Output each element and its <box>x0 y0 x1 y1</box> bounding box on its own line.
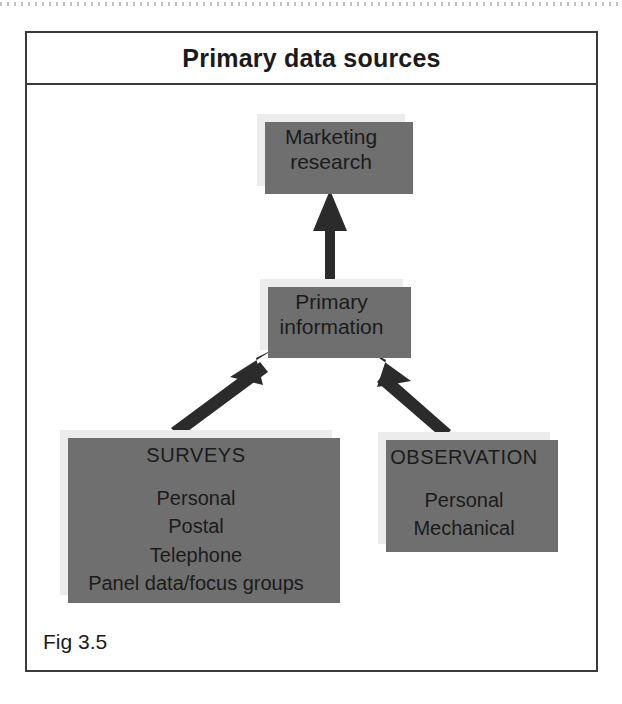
node-surveys-heading: SURVEYS <box>146 444 245 467</box>
node-surveys[interactable]: SURVEYS Personal Postal Telephone Panel … <box>60 430 332 595</box>
arrow-surveys-to-primary-information <box>171 349 274 437</box>
node-primary-information-line-2: information <box>280 315 384 340</box>
node-observation-item-personal: Personal <box>425 486 504 514</box>
node-marketing-research-line-1: Marketing <box>285 125 377 150</box>
node-marketing-research-line-2: research <box>290 150 372 175</box>
node-surveys-item-telephone: Telephone <box>150 541 242 569</box>
scan-edge-artifact <box>0 2 622 6</box>
node-observation[interactable]: OBSERVATION Personal Mechanical <box>378 432 550 544</box>
node-primary-information-line-1: Primary <box>295 290 367 315</box>
node-primary-information[interactable]: Primary information <box>260 279 403 350</box>
node-surveys-item-postal: Postal <box>168 512 224 540</box>
page-title: Primary data sources <box>182 44 440 73</box>
arrow-observation-to-primary-information <box>368 350 451 439</box>
figure-title-bar: Primary data sources <box>27 33 596 85</box>
node-observation-heading: OBSERVATION <box>390 446 538 469</box>
node-marketing-research[interactable]: Marketing research <box>257 114 405 186</box>
node-surveys-item-panel-data-focus-groups: Panel data/focus groups <box>88 569 304 597</box>
node-surveys-item-personal: Personal <box>157 484 236 512</box>
diagram-canvas: Marketing research Primary information S… <box>27 85 596 670</box>
node-observation-item-mechanical: Mechanical <box>413 514 514 542</box>
arrow-primary-information-to-marketing-research <box>313 190 347 280</box>
figure-frame: Primary data sources Marketing research <box>25 31 598 672</box>
